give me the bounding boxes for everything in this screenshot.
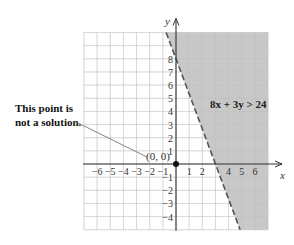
y-tick-label: −1 — [162, 172, 173, 183]
test-point-label: (0, 0) — [146, 150, 170, 163]
y-tick-label: 8 — [168, 54, 173, 65]
x-axis-label: x — [279, 169, 285, 181]
y-tick-label: −4 — [162, 212, 173, 223]
y-tick-label: 4 — [168, 106, 173, 117]
x-tick-label: −4 — [118, 166, 129, 177]
callout-line-1: This point is — [15, 102, 74, 114]
x-tick-label: 6 — [252, 166, 257, 177]
inequality-graph: −6−5−4−3−2−11245687654321−1−2−3−4 x y 8x… — [0, 0, 294, 245]
x-tick-label: −6 — [92, 166, 103, 177]
x-tick-label: −3 — [131, 166, 142, 177]
x-tick-label: 1 — [187, 166, 192, 177]
x-tick-label: 4 — [226, 166, 231, 177]
y-tick-label: −2 — [162, 185, 173, 196]
test-point-dot — [173, 161, 179, 167]
callout-line-2: not a solution. — [15, 116, 82, 128]
y-axis-label: y — [164, 15, 170, 27]
x-tick-label: 2 — [200, 166, 205, 177]
y-tick-label: 6 — [168, 80, 173, 91]
x-tick-label: 5 — [239, 166, 244, 177]
x-tick-label: −2 — [144, 166, 155, 177]
y-tick-label: −3 — [162, 198, 173, 209]
y-tick-label: 3 — [168, 120, 173, 131]
x-tick-label: −5 — [105, 166, 116, 177]
y-tick-label: 5 — [168, 93, 173, 104]
y-tick-label: 7 — [168, 67, 173, 78]
shaded-solution-region — [166, 33, 268, 230]
y-tick-label: 2 — [168, 133, 173, 144]
inequality-label: 8x + 3y > 24 — [210, 98, 267, 110]
